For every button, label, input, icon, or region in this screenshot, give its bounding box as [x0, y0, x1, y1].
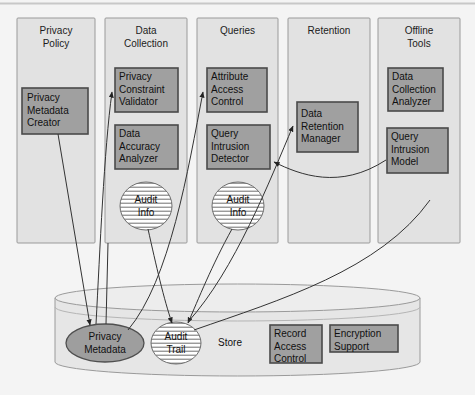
ellipse-audit-trail — [151, 322, 201, 364]
ellipse-audit-info-data-collection — [120, 182, 172, 230]
box-data-accuracy-analyzer — [115, 125, 178, 169]
box-encryption-support — [330, 325, 398, 352]
ellipse-audit-info-queries — [212, 182, 264, 230]
box-data-collection-analyzer — [388, 68, 443, 111]
box-query-intrusion-model — [387, 128, 448, 173]
box-attribute-access-control — [207, 68, 267, 112]
ellipse-privacy-metadata — [66, 324, 144, 362]
box-record-access-control — [270, 325, 322, 363]
diagram-svg — [0, 0, 475, 395]
cylinder-top — [55, 284, 420, 312]
box-query-intrusion-detector — [207, 125, 270, 169]
box-privacy-constraint-validator — [115, 68, 178, 112]
box-privacy-metadata-creator — [22, 88, 88, 134]
diagram-canvas: Privacy Policy Data Collection Queries R… — [0, 0, 475, 395]
box-data-retention-manager — [297, 102, 358, 152]
